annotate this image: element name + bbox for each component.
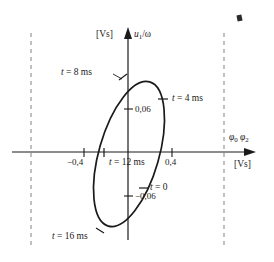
curve-label-t4: t = 4 ms (172, 94, 203, 104)
y-tick-label-pos006: 0,06 (135, 105, 151, 114)
marker-t16 (96, 228, 104, 233)
leader-t8 (113, 74, 122, 79)
curve-label-t8-rest: = 8 ms (64, 67, 92, 77)
x-axis-quantity-labels: φ0 φ2 (229, 133, 249, 144)
x-axis-unit-label: [Vs] (234, 160, 251, 170)
x-axis-arrowhead (244, 148, 256, 156)
y-axis-unit-label: [Vs] (96, 30, 113, 40)
curve-label-t12-rest: = 12 ms (112, 157, 145, 167)
x-axis-quantity-b-sub: 2 (245, 136, 248, 143)
curve-label-t16-rest: = 16 ms (55, 231, 88, 241)
figure-canvas: [Vs] u1/ω φ0 φ2 [Vs] −0,4 0,4 0,06 −0,06… (0, 0, 274, 262)
y-axis-quantity-label: u1/ω (134, 30, 151, 41)
marker-t8 (119, 74, 127, 80)
curve-label-t8: t = 8 ms (61, 68, 92, 78)
curve-label-t0-rest: = 0 (153, 182, 168, 192)
locus-ellipse (79, 74, 178, 235)
curve-label-t16: t = 16 ms (52, 232, 88, 242)
y-axis-arrowhead (124, 27, 132, 39)
y-axis-quantity-tail: /ω (142, 29, 151, 39)
curve-label-t4-rest: = 4 ms (175, 93, 203, 103)
label-leaders (113, 74, 122, 79)
x-tick-label-neg04: −0,4 (67, 158, 83, 167)
y-tick-label-neg006: −0,06 (135, 192, 156, 201)
curve-label-t0: t = 0 (150, 183, 168, 193)
locus-point-markers (96, 74, 168, 233)
x-tick-label-pos04: 0,4 (165, 158, 176, 167)
scan-artifact-mark (236, 15, 242, 22)
curve-label-t12: t = 12 ms (109, 158, 145, 168)
